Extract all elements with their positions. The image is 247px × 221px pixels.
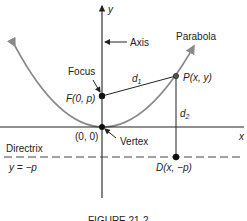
directrix-equation: y = −p bbox=[8, 162, 37, 173]
y-axis-label: y bbox=[107, 4, 114, 15]
vertex-pointer-arrow bbox=[105, 129, 116, 138]
focus-point-label: F(0, p) bbox=[66, 93, 95, 104]
point-p-label: P(x, y) bbox=[183, 72, 212, 83]
parabola-label: Parabola bbox=[176, 31, 216, 42]
focus-pointer-arrow bbox=[93, 80, 100, 92]
vertex-point bbox=[99, 124, 105, 130]
d2-label: d2 bbox=[180, 108, 190, 120]
directrix-label: Directrix bbox=[6, 143, 43, 154]
point-p bbox=[173, 73, 178, 78]
x-axis-label: x bbox=[238, 131, 245, 142]
focus-label: Focus bbox=[68, 66, 95, 77]
figure-caption: FIGURE 21-2 bbox=[88, 215, 149, 221]
parabola-curve bbox=[15, 46, 194, 127]
parabola-diagram: y x Axis Parabola Focus F(0, p) P(x, y) … bbox=[0, 0, 247, 221]
focus-point bbox=[99, 93, 105, 99]
axis-label: Axis bbox=[130, 37, 149, 48]
d1-label: d1 bbox=[132, 73, 142, 85]
origin-label: (0, 0) bbox=[75, 131, 98, 142]
point-d-label: D(x, −p) bbox=[156, 162, 192, 173]
point-d bbox=[173, 154, 179, 160]
vertex-label: Vertex bbox=[120, 136, 148, 147]
